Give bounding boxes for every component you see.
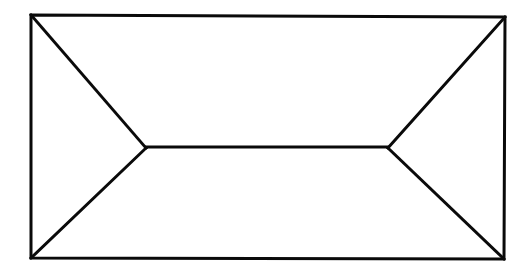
line-drawing-svg bbox=[0, 0, 528, 277]
figure-canvas bbox=[0, 0, 528, 277]
figure-background bbox=[0, 0, 528, 277]
